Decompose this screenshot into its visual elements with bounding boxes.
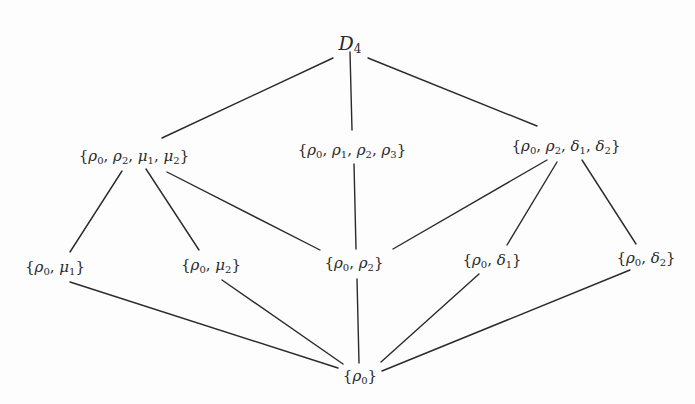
node-rho0-mu1: {ρ0, μ1} xyxy=(25,260,85,277)
close-brace: } xyxy=(374,254,384,272)
set-element: ρ1 xyxy=(332,141,347,159)
edge-rho02-rho0 xyxy=(357,279,359,363)
set-element: μ2 xyxy=(215,256,231,274)
comma: , xyxy=(50,258,60,276)
set-element: ρ0 xyxy=(334,254,349,272)
node-rho0-delta1: {ρ0, δ1} xyxy=(462,253,521,270)
open-brace: { xyxy=(462,251,472,269)
edge-D4-rho02delta12 xyxy=(368,58,537,126)
edge-rho02mu12-rho0mu1 xyxy=(70,171,122,252)
node-rho0-mu2: {ρ0, μ2} xyxy=(181,258,241,275)
edge-rho0mu2-rho0 xyxy=(222,280,343,364)
set-element: δ1 xyxy=(497,251,512,269)
node-rho0-rho2: {ρ0, ρ2} xyxy=(324,256,383,273)
open-brace: { xyxy=(324,254,334,272)
node-label-base: D xyxy=(339,32,354,54)
set-element: ρ0 xyxy=(352,367,367,385)
node-rho0-rho1-rho2-rho3: {ρ0, ρ1, ρ2, ρ3} xyxy=(298,143,407,160)
set-element: ρ0 xyxy=(521,137,536,155)
comma: , xyxy=(372,141,382,159)
comma: , xyxy=(487,251,497,269)
node-label-subscript: 4 xyxy=(354,42,362,56)
comma: , xyxy=(586,137,596,155)
set-element: μ2 xyxy=(164,147,180,165)
comma: , xyxy=(104,147,114,165)
comma: , xyxy=(641,249,651,267)
open-brace: { xyxy=(298,141,308,159)
set-element: ρ2 xyxy=(113,147,128,165)
comma: , xyxy=(154,147,164,165)
close-brace: } xyxy=(666,249,676,267)
edge-D4-rho02mu12 xyxy=(162,58,333,138)
open-brace: { xyxy=(616,249,626,267)
set-element: ρ2 xyxy=(359,254,374,272)
edge-rho0delta1-rho0 xyxy=(381,274,479,362)
set-element: μ1 xyxy=(59,258,75,276)
comma: , xyxy=(322,141,332,159)
node-D4: D4 xyxy=(339,34,362,55)
comma: , xyxy=(347,141,357,159)
node-rho0-rho2-delta1-delta2: {ρ0, ρ2, δ1, δ2} xyxy=(512,139,621,156)
edge-rho02mu12-rho0mu2 xyxy=(146,169,199,250)
lattice-edges xyxy=(0,0,695,404)
comma: , xyxy=(349,254,359,272)
close-brace: } xyxy=(611,137,621,155)
open-brace: { xyxy=(25,258,35,276)
open-brace: { xyxy=(181,256,191,274)
set-element: ρ2 xyxy=(546,137,561,155)
open-brace: { xyxy=(512,137,522,155)
close-brace: } xyxy=(231,256,241,274)
set-element: ρ0 xyxy=(191,256,206,274)
set-element: ρ0 xyxy=(307,141,322,159)
edge-rho02delta12-rho0delta2 xyxy=(582,160,636,244)
edge-rho02delta12-rho0delta1 xyxy=(507,162,557,245)
set-element: ρ0 xyxy=(626,249,641,267)
node-rho0-rho2-mu1-mu2: {ρ0, ρ2, μ1, μ2} xyxy=(79,149,189,166)
open-brace: { xyxy=(343,367,353,385)
set-element: ρ2 xyxy=(357,141,372,159)
edge-D4-rho0123 xyxy=(350,52,352,130)
comma: , xyxy=(536,137,546,155)
node-rho0-delta2: {ρ0, δ2} xyxy=(616,251,675,268)
open-brace: { xyxy=(79,147,89,165)
close-brace: } xyxy=(512,251,522,269)
edge-rho02delta12-rho02 xyxy=(393,160,547,249)
node-rho0: {ρ0} xyxy=(343,369,377,386)
set-element: ρ0 xyxy=(472,251,487,269)
comma: , xyxy=(128,147,138,165)
close-brace: } xyxy=(180,147,190,165)
set-element: δ2 xyxy=(651,249,666,267)
subgroup-lattice-diagram: D4 {ρ0, ρ2, μ1, μ2} {ρ0, ρ1, ρ2, ρ3} {ρ0… xyxy=(0,0,695,404)
set-element: δ1 xyxy=(571,137,586,155)
comma: , xyxy=(561,137,571,155)
set-element: ρ3 xyxy=(382,141,397,159)
edge-rho02mu12-rho02 xyxy=(167,172,320,250)
edge-rho0delta2-rho0 xyxy=(382,270,630,371)
set-element: μ1 xyxy=(138,147,154,165)
edge-rho0mu1-rho0 xyxy=(70,282,338,368)
close-brace: } xyxy=(75,258,85,276)
set-element: ρ0 xyxy=(35,258,50,276)
close-brace: } xyxy=(368,367,378,385)
set-element: δ2 xyxy=(596,137,611,155)
close-brace: } xyxy=(397,141,407,159)
comma: , xyxy=(206,256,216,274)
set-element: ρ0 xyxy=(88,147,103,165)
edge-rho0123-rho02 xyxy=(354,164,356,249)
